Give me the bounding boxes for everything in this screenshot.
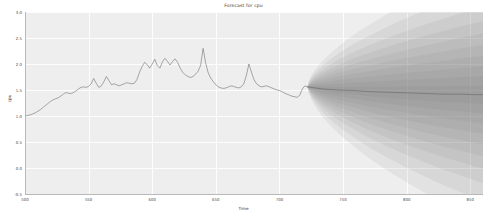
y-tick-label: 3.0	[4, 10, 22, 15]
x-tick-label: 750	[328, 197, 358, 202]
y-tick-label: 2.0	[4, 62, 22, 67]
x-axis-spine	[25, 194, 483, 195]
forecast-mean-line	[307, 87, 483, 95]
y-tick-label: 0.5	[4, 140, 22, 145]
x-tick-label: 700	[264, 197, 294, 202]
y-tick-label: 0.0	[4, 166, 22, 171]
x-tick-label: 850	[455, 197, 485, 202]
y-axis-label: cpu	[7, 87, 12, 111]
chart-title: Forecast for cpu	[0, 3, 487, 8]
forecast-chart-figure: Forecast for cpu -0.50.00.51.01.52.02.53…	[0, 0, 487, 218]
history-line	[25, 48, 307, 116]
x-tick-label: 650	[201, 197, 231, 202]
x-axis-label: Time	[0, 206, 487, 211]
y-tick-label: 2.5	[4, 36, 22, 41]
y-tick-label: 1.0	[4, 114, 22, 119]
y-axis-spine	[25, 12, 26, 194]
x-tick-label: 800	[392, 197, 422, 202]
x-tick-label: 550	[74, 197, 104, 202]
series-line-layer	[25, 12, 483, 194]
x-tick-label: 600	[137, 197, 167, 202]
x-tick-label: 500	[10, 197, 40, 202]
plot-area	[25, 12, 483, 194]
